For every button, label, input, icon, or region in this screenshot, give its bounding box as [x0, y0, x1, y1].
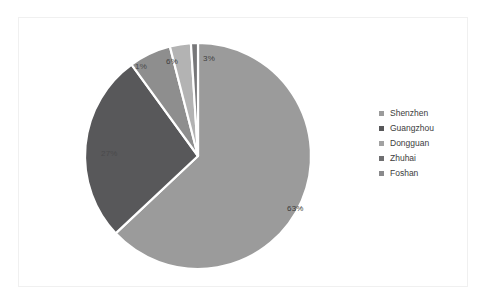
legend-item-shenzhen[interactable]: Shenzhen: [379, 106, 486, 121]
legend-marker-icon: [379, 126, 384, 131]
legend-item-guangzhou[interactable]: Guangzhou: [379, 121, 486, 136]
pie-chart-plot-area: 63% 27% 6% 3% 1%: [19, 18, 379, 286]
slice-label-zhuhai: 3%: [203, 54, 215, 63]
legend-marker-icon: [379, 171, 384, 176]
slice-label-dongguan: 6%: [166, 57, 178, 66]
legend-item-foshan[interactable]: Foshan: [379, 166, 486, 181]
legend-marker-icon: [379, 111, 384, 116]
slice-label-foshan: 1%: [135, 62, 147, 71]
legend-marker-icon: [379, 141, 384, 146]
legend-marker-icon: [379, 156, 384, 161]
slice-label-shenzhen: 63%: [287, 204, 304, 213]
legend-item-label: Shenzhen: [390, 109, 428, 118]
chart-frame: 63% 27% 6% 3% 1% ShenzhenGuangzhouDonggu…: [18, 17, 468, 287]
legend-item-label: Zhuhai: [390, 154, 416, 163]
legend-item-label: Dongguan: [390, 139, 429, 148]
legend-item-dongguan[interactable]: Dongguan: [379, 136, 486, 151]
pie-slice-group: [85, 43, 311, 269]
chart-legend: ShenzhenGuangzhouDongguanZhuhaiFoshan: [379, 106, 486, 181]
legend-item-label: Guangzhou: [390, 124, 434, 133]
slice-label-guangzhou: 27%: [101, 149, 118, 158]
legend-item-label: Foshan: [390, 169, 418, 178]
legend-item-zhuhai[interactable]: Zhuhai: [379, 151, 486, 166]
pie-chart-svg: [19, 18, 379, 286]
